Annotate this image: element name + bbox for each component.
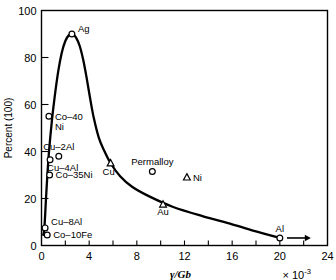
x-tick-label: 4: [86, 250, 92, 262]
point-label-cu-2al: Cu–2Al: [43, 141, 74, 152]
point-label-co-10fe: Co–10Fe: [53, 229, 92, 240]
point-label-co-40-ni: Co–40Ni: [55, 111, 83, 132]
y-tick-label: 60: [24, 99, 36, 111]
al-right-arrow-head: [305, 235, 311, 241]
marker-circle-co-10fe: [44, 232, 50, 238]
marker-circle-cu-2al: [56, 153, 62, 159]
x-tick-label: 8: [134, 250, 140, 262]
marker-circle-co-40-ni: [46, 113, 52, 119]
chart-figure: 04812162024 020406080100 AgCo–40NiCu–2Al…: [0, 0, 336, 280]
marker-circle-co-35ni: [47, 172, 53, 178]
point-label-co-35ni: Co–35Ni: [56, 169, 93, 180]
marker-circle-al: [277, 235, 283, 241]
x-axis-tick-labels: 04812162024: [38, 250, 333, 262]
point-label-permalloy: Permalloy: [131, 156, 173, 167]
data-point-labels: AgCo–40NiCu–2AlCu–4AlCo–35NiCu–8AlCo–10F…: [43, 23, 284, 241]
exponent-power: -3: [304, 267, 311, 276]
x-tick-label: 20: [274, 250, 286, 262]
chart-annotations: [287, 235, 311, 241]
y-axis-title: Percent (100): [3, 98, 14, 159]
point-label-ni: Ni: [193, 172, 202, 183]
y-tick-label: 100: [18, 5, 36, 17]
x-axis-title: γ/Gb: [170, 268, 192, 280]
point-label-cu: Cu: [103, 166, 115, 177]
x-axis-exponent: × 10-3: [283, 267, 311, 280]
y-tick-label: 0: [30, 240, 36, 252]
marker-circle-ag: [69, 31, 75, 37]
point-label-cu-8al: Cu–8Al: [51, 216, 82, 227]
point-label-ag: Ag: [78, 23, 90, 34]
y-tick-label: 20: [24, 193, 36, 205]
point-label-al: Al: [276, 223, 284, 234]
y-axis-tick-labels: 020406080100: [18, 5, 36, 252]
point-label-au: Au: [157, 206, 169, 217]
x-tick-label: 16: [226, 250, 238, 262]
exponent-text: × 10-3: [283, 267, 311, 280]
marker-circle-permalloy: [149, 169, 155, 175]
x-tick-label: 12: [178, 250, 190, 262]
marker-triangle-ni: [183, 174, 190, 180]
marker-circle-cu-8al: [42, 225, 48, 231]
y-tick-label: 40: [24, 146, 36, 158]
y-tick-label: 80: [24, 52, 36, 64]
chart-canvas: 04812162024 020406080100 AgCo–40NiCu–2Al…: [0, 0, 336, 280]
x-axis-ticks: [65, 241, 303, 246]
x-tick-label: 24: [321, 250, 333, 262]
x-tick-label: 0: [38, 250, 44, 262]
